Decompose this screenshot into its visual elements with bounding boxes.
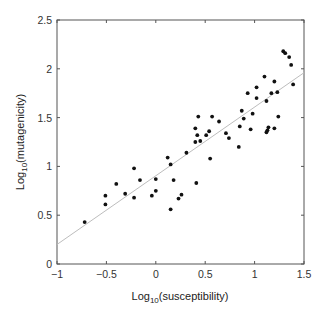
regression-line <box>57 73 304 245</box>
x-tick-label: 0 <box>153 268 159 280</box>
data-point <box>249 127 253 131</box>
data-point <box>208 157 212 161</box>
data-point <box>198 139 202 143</box>
data-point <box>251 112 255 116</box>
data-point <box>138 178 142 182</box>
data-point <box>194 181 198 185</box>
x-tick-label: −0.5 <box>96 268 117 280</box>
data-point <box>272 126 276 130</box>
data-point <box>172 178 176 182</box>
data-point <box>246 91 250 95</box>
x-tick-labels: −1−0.500.511.5 <box>51 268 311 280</box>
data-point <box>195 133 199 137</box>
y-tick-label: 0 <box>46 258 52 270</box>
data-point <box>255 85 259 89</box>
data-point <box>265 130 269 134</box>
data-point <box>227 136 231 140</box>
data-point <box>224 131 228 135</box>
x-tick-label: 1 <box>252 268 258 280</box>
data-point <box>238 124 242 128</box>
data-point <box>269 91 273 95</box>
y-tick-label: 0.5 <box>37 209 52 221</box>
axis-ticks <box>57 20 304 264</box>
data-point <box>169 163 173 167</box>
data-point <box>123 192 127 196</box>
fit-line <box>57 73 304 245</box>
scatter-chart: −1−0.500.511.5 00.511.522.5 Log10(suscep… <box>0 0 323 316</box>
x-tick-label: −1 <box>51 268 63 280</box>
data-point <box>150 194 154 198</box>
x-tick-label: 0.5 <box>198 268 213 280</box>
data-point <box>193 126 197 130</box>
data-point <box>217 120 221 124</box>
data-point <box>263 75 267 79</box>
data-point <box>104 203 108 207</box>
y-tick-label: 1.5 <box>37 112 52 124</box>
data-point <box>154 177 158 181</box>
data-point <box>237 145 241 149</box>
data-point <box>283 51 287 55</box>
data-point <box>83 220 87 224</box>
y-tick-label: 2.5 <box>37 14 52 26</box>
data-point <box>240 109 244 113</box>
data-point <box>287 55 291 59</box>
data-point <box>166 156 170 160</box>
data-point <box>204 133 208 137</box>
data-point <box>291 83 295 87</box>
data-point <box>132 166 136 170</box>
x-axis-label: Log10(susceptibility) <box>132 290 229 305</box>
data-point <box>132 196 136 200</box>
data-point <box>289 63 293 67</box>
y-axis-label: Log10(mutagenicity) <box>14 94 29 190</box>
data-point <box>255 96 259 100</box>
data-point <box>196 115 200 119</box>
y-tick-label: 1 <box>46 160 52 172</box>
data-point <box>210 115 214 119</box>
x-tick-label: 1.5 <box>297 268 312 280</box>
data-point <box>180 193 184 197</box>
data-point <box>104 194 108 198</box>
y-tick-label: 2 <box>46 63 52 75</box>
data-points <box>83 49 295 224</box>
data-point <box>169 207 173 211</box>
plot-frame <box>57 20 304 264</box>
data-point <box>275 90 279 94</box>
y-tick-labels: 00.511.522.5 <box>37 14 52 270</box>
data-point <box>177 197 181 201</box>
data-point <box>207 129 211 133</box>
data-point <box>114 182 118 186</box>
data-point <box>154 189 158 193</box>
data-point <box>265 99 269 103</box>
data-point <box>276 115 280 119</box>
data-point <box>185 151 189 155</box>
data-point <box>272 80 276 84</box>
data-point <box>242 117 246 121</box>
data-point <box>193 140 197 144</box>
